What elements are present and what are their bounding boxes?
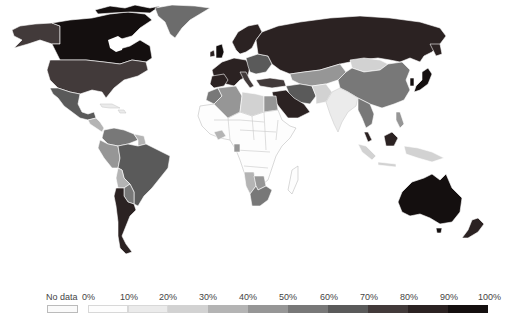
legend-tick-10: 10% [120, 292, 138, 302]
legend-swatch-7 [368, 305, 408, 313]
legend-tick-0: 0% [82, 292, 95, 302]
world-choropleth-map [0, 0, 506, 285]
legend-swatch-9 [448, 305, 488, 313]
legend-tick-30: 30% [199, 292, 217, 302]
legend-tick-100: 100% [478, 292, 501, 302]
legend-swatch-6 [328, 305, 368, 313]
region-russia [256, 16, 446, 74]
region-korea [410, 78, 414, 86]
region-borneo [384, 132, 398, 146]
legend-tick-40: 40% [239, 292, 257, 302]
legend-swatch-4 [248, 305, 288, 313]
region-greenland [155, 5, 210, 38]
region-new-zealand [462, 218, 484, 238]
region-eastern-europe [246, 54, 272, 74]
region-uk [216, 44, 224, 58]
legend-swatch-1 [128, 305, 168, 313]
legend-tick-80: 80% [400, 292, 418, 302]
region-turkey [256, 78, 286, 88]
region-mexico [50, 88, 96, 120]
legend-tick-90: 90% [440, 292, 458, 302]
region-iberia [210, 74, 228, 88]
region-ireland [210, 50, 215, 57]
region-libya [240, 92, 264, 116]
region-caribbean [100, 104, 120, 108]
legend-swatch-3 [208, 305, 248, 313]
legend-tick-70: 70% [360, 292, 378, 302]
region-gabon [234, 144, 240, 152]
region-italy [240, 72, 254, 88]
legend-swatch-8 [408, 305, 448, 313]
region-caribbean-2 [118, 110, 126, 113]
legend-swatch-no-data [47, 305, 78, 313]
region-madagascar [288, 166, 298, 194]
region-philippines [396, 112, 404, 128]
legend-tick-20: 20% [159, 292, 177, 302]
region-indonesia-east [404, 146, 444, 162]
map-legend: No data 0% 10% 20% 30% 40% 50% 60% 70% 8… [0, 288, 506, 318]
region-tasmania [436, 228, 442, 233]
legend-swatch-2 [168, 305, 208, 313]
legend-swatch-5 [288, 305, 328, 313]
region-malaysia [364, 132, 372, 142]
region-colombia-venezuela [102, 128, 138, 146]
region-indonesia-java [378, 162, 396, 167]
region-canada [52, 12, 152, 64]
region-japan [414, 68, 432, 92]
region-australia [398, 174, 462, 224]
region-egypt [264, 96, 278, 112]
region-central-america [88, 118, 104, 132]
legend-no-data-label: No data [46, 292, 78, 302]
region-indonesia-sumatra [358, 144, 376, 160]
legend-swatch-0 [88, 305, 128, 313]
legend-tick-50: 50% [279, 292, 297, 302]
legend-tick-60: 60% [320, 292, 338, 302]
